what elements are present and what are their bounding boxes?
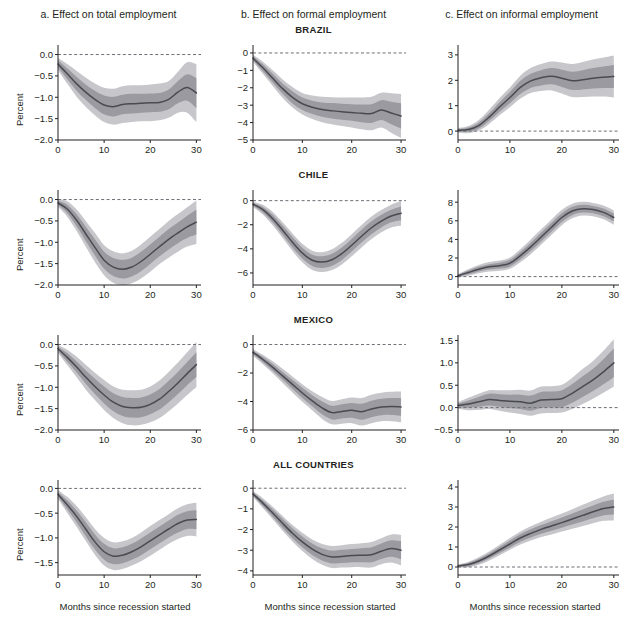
panel-mexico-total: −2.0−1.5−1.0−0.50.00102030Percent [4, 328, 209, 456]
column-header-total: a. Effect on total employment [6, 8, 211, 20]
y-tick-label: 0.0 [40, 49, 53, 60]
panel-mexico-informal: −0.50.00.51.01.50102030 [414, 328, 627, 456]
y-axis-label: Percent [14, 93, 25, 126]
column-header-informal: c. Effect on informal employment [416, 8, 627, 20]
x-axis-labels: Months since recession startedMonths sin… [0, 601, 627, 617]
y-tick-label: −4 [237, 565, 248, 576]
y-tick-label: 2 [448, 521, 453, 532]
x-tick-label: 10 [297, 144, 308, 155]
y-tick-label: −2.0 [34, 279, 53, 290]
x-tick-label: 30 [396, 289, 407, 300]
x-tick-label: 20 [346, 144, 357, 155]
x-tick-label: 10 [505, 579, 516, 590]
x-tick-label: 0 [55, 579, 60, 590]
x-tick-label: 20 [145, 579, 156, 590]
x-tick-label: 10 [99, 144, 110, 155]
row-title-all_countries: ALL COUNTRIES [0, 459, 627, 470]
y-tick-label: 1.0 [440, 357, 453, 368]
x-tick-label: 0 [55, 434, 60, 445]
x-tick-label: 20 [557, 434, 568, 445]
inner-confidence-band [253, 351, 401, 420]
row-title-mexico: MEXICO [0, 314, 627, 325]
x-tick-label: 20 [346, 289, 357, 300]
y-tick-label: 0 [448, 271, 453, 282]
x-tick-label: 30 [396, 434, 407, 445]
x-tick-label: 0 [250, 289, 255, 300]
y-tick-label: −2 [237, 367, 248, 378]
chart-mexico-informal: −0.50.00.51.01.50102030 [414, 328, 627, 456]
panel-brazil-formal: −5−4−3−2−100102030 [209, 38, 414, 166]
x-tick-label: 0 [455, 434, 460, 445]
y-tick-label: 0 [243, 339, 248, 350]
y-tick-label: −4 [237, 243, 248, 254]
x-tick-label: 20 [557, 289, 568, 300]
y-tick-label: −6 [237, 424, 248, 435]
y-tick-label: 0.5 [440, 380, 453, 391]
y-tick-label: −6 [237, 267, 248, 278]
y-tick-label: −5 [237, 134, 248, 145]
y-tick-label: 0.0 [40, 194, 53, 205]
x-tick-label: 10 [99, 289, 110, 300]
x-axis-label-formal: Months since recession started [235, 601, 425, 612]
y-tick-label: 0 [243, 47, 248, 58]
outer-confidence-band [253, 55, 401, 138]
y-tick-label: −1.5 [34, 258, 53, 269]
chart-brazil-informal: 01230102030 [414, 38, 627, 166]
row-title-brazil: BRAZIL [0, 24, 627, 35]
panel-all_countries-total: −1.5−1.0−0.50.00102030Percent [4, 473, 209, 601]
y-tick-label: −1 [237, 503, 248, 514]
x-axis-label-informal: Months since recession started [440, 601, 627, 612]
y-tick-label: −1.0 [34, 382, 53, 393]
x-tick-label: 10 [505, 434, 516, 445]
y-tick-label: 0.0 [40, 339, 53, 350]
column-header-formal: b. Effect on formal employment [211, 8, 416, 20]
x-tick-label: 30 [609, 144, 620, 155]
y-tick-label: −0.5 [34, 508, 53, 519]
chart-chile-formal: −6−4−200102030 [209, 183, 414, 311]
chart-chile-informal: 024680102030 [414, 183, 627, 311]
y-tick-label: 0 [448, 126, 453, 137]
inner-confidence-band [458, 65, 614, 132]
x-tick-label: 30 [396, 579, 407, 590]
chart-all-countries-total: −1.5−1.0−0.50.00102030 [4, 473, 209, 601]
x-tick-label: 20 [557, 579, 568, 590]
x-tick-label: 0 [55, 144, 60, 155]
x-tick-label: 10 [505, 289, 516, 300]
y-tick-label: −2 [237, 219, 248, 230]
panel-brazil-informal: 01230102030 [414, 38, 627, 166]
y-tick-label: 1 [448, 100, 453, 111]
chart-all-countries-formal: −4−3−2−100102030 [209, 473, 414, 601]
y-tick-label: −2 [237, 524, 248, 535]
y-tick-label: −0.5 [34, 215, 53, 226]
row-brazil: BRAZIL−2.0−1.5−1.0−0.50.00102030Percent−… [0, 24, 627, 169]
x-tick-label: 30 [609, 289, 620, 300]
x-axis-label-total: Months since recession started [30, 601, 220, 612]
x-tick-label: 20 [346, 579, 357, 590]
y-tick-label: −2.0 [34, 424, 53, 435]
y-tick-label: −0.5 [434, 424, 453, 435]
y-tick-label: −0.5 [34, 360, 53, 371]
x-tick-label: 10 [297, 289, 308, 300]
x-tick-label: 0 [55, 289, 60, 300]
panel-grid: BRAZIL−2.0−1.5−1.0−0.50.00102030Percent−… [0, 24, 627, 604]
y-tick-label: 0 [243, 195, 248, 206]
y-tick-label: 0 [243, 483, 248, 494]
y-tick-label: 4 [448, 234, 453, 245]
y-tick-label: −1.0 [34, 532, 53, 543]
y-tick-label: 8 [448, 197, 453, 208]
y-tick-label: −4 [237, 396, 248, 407]
y-tick-label: −3 [237, 100, 248, 111]
x-tick-label: 10 [99, 579, 110, 590]
x-tick-label: 30 [609, 434, 620, 445]
y-tick-label: 6 [448, 215, 453, 226]
x-tick-label: 30 [191, 579, 202, 590]
y-axis-label: Percent [14, 528, 25, 561]
x-tick-label: 30 [396, 144, 407, 155]
y-tick-label: −1.5 [34, 557, 53, 568]
y-tick-label: 3 [448, 49, 453, 60]
x-tick-label: 0 [455, 289, 460, 300]
x-tick-label: 30 [191, 144, 202, 155]
panel-chile-formal: −6−4−200102030 [209, 183, 414, 311]
y-tick-label: −1.5 [34, 113, 53, 124]
y-tick-label: −1.5 [34, 403, 53, 414]
